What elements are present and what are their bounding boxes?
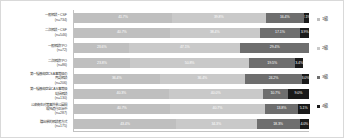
bar-row: 40.3%40.0%10.7%9.0%: [74, 89, 309, 99]
bar-segment-1級: 40.7%: [74, 28, 170, 38]
bar-row: 23.8%50.8%19.5%3.4%: [74, 58, 309, 68]
x-axis-baseline: [73, 131, 309, 132]
bar-segment-3級: 24.2%: [245, 74, 302, 84]
legend-swatch-icon: [317, 76, 320, 79]
category-label: 第一種感染症CSA事等級の 再認相談 (n=206): [5, 72, 67, 85]
bar-segment-1級: 40.3%: [74, 89, 169, 99]
plot-area: 41.7%39.8%16.4%2.1%40.7%38.4%17.1%3.9%23…: [73, 10, 309, 132]
chart-legend: 1級2級3級4級: [317, 15, 343, 131]
bar-segment-4級: 3.0%: [302, 74, 309, 84]
legend-swatch-icon: [317, 105, 320, 108]
category-label: 第一種感染症全CAS事等級 総括相談 (n=130): [5, 87, 67, 100]
bar-segment-4級: 5.1%: [298, 104, 310, 114]
bar-segment-1級: 36.4%: [74, 74, 160, 84]
category-label: 二次相談TPO (n=86): [5, 59, 67, 68]
bar-segment-2級: 34.3%: [176, 119, 257, 129]
bar-segment-2級: 40.7%: [170, 104, 266, 114]
legend-label: 1級: [322, 17, 328, 21]
bar-segment-4級: 4.0%: [300, 119, 309, 129]
legend-label: 4級: [322, 104, 328, 108]
bar-segment-1級: 41.7%: [74, 13, 172, 23]
category-label: 職出単的相談者方式 (n=175): [5, 120, 67, 129]
bar-segment-1級: 23.6%: [74, 43, 129, 53]
bar-row: 23.6%47.1%29.4%: [74, 43, 309, 53]
bar-segment-1級: 40.7%: [74, 104, 170, 114]
bar-segment-1級: 43.4%: [74, 119, 176, 129]
legend-item-4級[interactable]: 4級: [317, 102, 343, 110]
bar-segment-3級: 17.1%: [260, 28, 300, 38]
bar-row: 43.4%34.3%18.3%4.0%: [74, 119, 309, 129]
legend-label: 3級: [322, 75, 328, 79]
chart-container: 41.7%39.8%16.4%2.1%40.7%38.4%17.1%3.9%23…: [0, 0, 344, 138]
bar-segment-2級: 36.4%: [160, 74, 246, 84]
bar-segment-3級: 19.5%: [249, 58, 295, 68]
category-label: 一般相談TPO (n=72): [5, 44, 67, 53]
bar-segment-2級: 50.8%: [130, 58, 249, 68]
bar-segment-2級: 40.0%: [169, 89, 263, 99]
category-label: 一般相談・CSF (n=734): [5, 13, 67, 22]
legend-swatch-icon: [317, 47, 320, 50]
bar-segment-1級: 23.8%: [74, 58, 130, 68]
category-label: 公衆衛生対策事外業公園間 現地進行正治中 (n=287): [5, 103, 67, 116]
bar-segment-3級: 10.7%: [263, 89, 288, 99]
bar-segment-4級: 2.1%: [304, 13, 309, 23]
bar-row: 40.7%40.7%13.8%5.1%: [74, 104, 309, 114]
category-label: 二次相談・CSF (n=546): [5, 28, 67, 37]
bar-row: 36.4%36.4%24.2%3.0%: [74, 74, 309, 84]
legend-item-3級[interactable]: 3級: [317, 73, 343, 81]
bar-segment-3級: 16.4%: [266, 13, 305, 23]
bar-row: 41.7%39.8%16.4%2.1%: [74, 13, 309, 23]
bar-segment-3級: 29.4%: [240, 43, 309, 53]
legend-item-1級[interactable]: 1級: [317, 15, 343, 23]
legend-swatch-icon: [317, 18, 320, 21]
legend-label: 2級: [322, 46, 328, 50]
bar-row: 40.7%38.4%17.1%3.9%: [74, 28, 309, 38]
bar-segment-4級: 3.4%: [295, 58, 303, 68]
bar-segment-4級: 3.9%: [300, 28, 309, 38]
bar-segment-4級: 9.0%: [288, 89, 309, 99]
bar-segment-2級: 39.8%: [172, 13, 266, 23]
bar-segment-2級: 47.1%: [129, 43, 240, 53]
legend-item-2級[interactable]: 2級: [317, 44, 343, 52]
bar-segment-3級: 13.8%: [265, 104, 297, 114]
bar-segment-2級: 38.4%: [170, 28, 260, 38]
bar-segment-3級: 18.3%: [257, 119, 300, 129]
